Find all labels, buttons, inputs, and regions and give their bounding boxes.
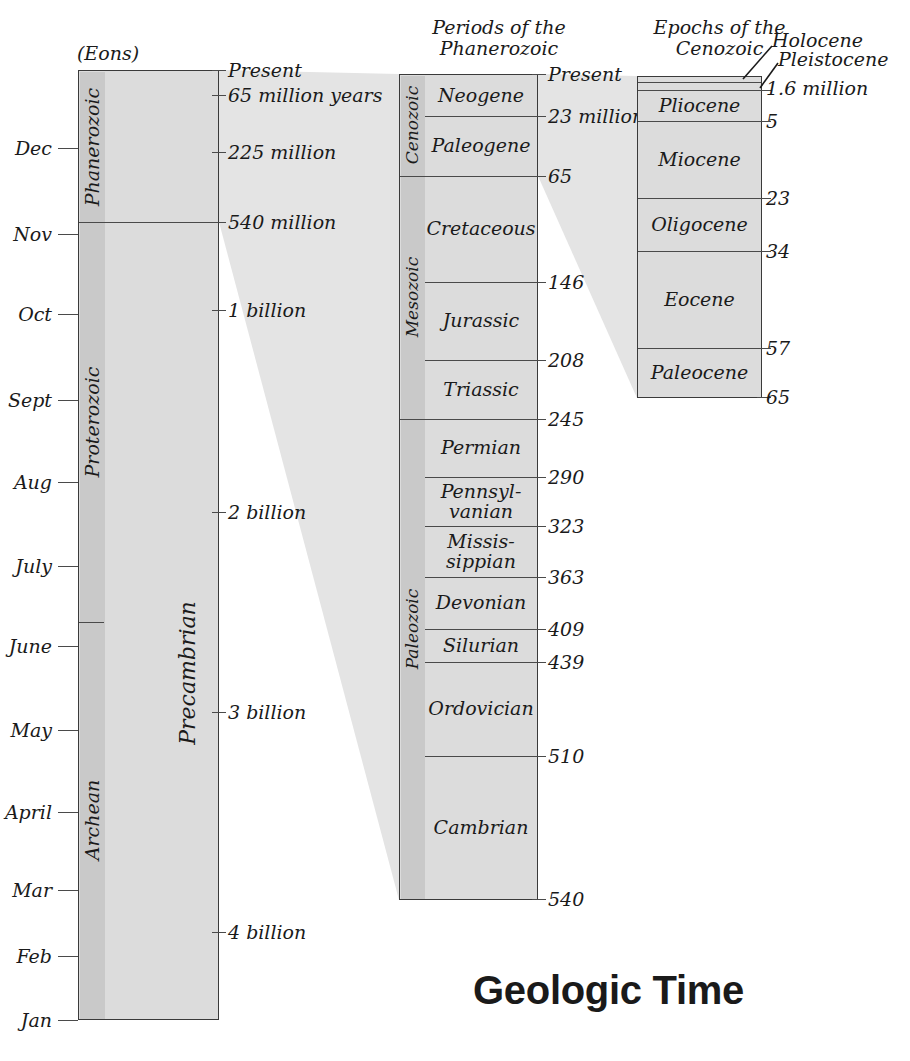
epoch-divider (638, 251, 761, 252)
eon-scale-tick (212, 95, 226, 96)
period-cell-neogene: Neogene (425, 76, 537, 116)
period-scale-label-65: 65 (548, 167, 572, 186)
month-tick (58, 1020, 78, 1021)
epoch-scale-label-1-6m: 1.6 million (766, 79, 868, 98)
eon-scale-label-65m: 65 million years (228, 86, 382, 105)
geologic-time-diagram: (Eons) Phanerozoic Proterozoic Archean P… (0, 0, 910, 1061)
month-tick (58, 400, 78, 401)
eon-column-heading: (Eons) (28, 43, 188, 64)
period-cell-triassic: Triassic (425, 360, 537, 419)
epoch-divider (638, 348, 761, 349)
epoch-cell-miocene: Miocene (638, 121, 761, 198)
month-tick (58, 314, 78, 315)
period-scale-label-510: 510 (548, 747, 584, 766)
eon-scale-tick (212, 222, 226, 223)
month-label-oct: Oct (0, 305, 52, 324)
period-scale-tick (532, 756, 546, 757)
precambrian-label: Precambrian (174, 553, 200, 793)
eon-scale-tick (212, 152, 226, 153)
epoch-scale-label-5: 5 (766, 112, 778, 131)
period-scale-label-23m: 23 million (548, 107, 644, 126)
period-scale-tick (532, 360, 546, 361)
period-era-strip (401, 76, 425, 899)
period-scale-label-208: 208 (548, 351, 584, 370)
month-label-mar: Mar (0, 881, 52, 900)
month-label-feb: Feb (0, 947, 52, 966)
period-scale-tick (532, 176, 546, 177)
eon-scale-label-225m: 225 million (228, 143, 336, 162)
period-cell-permian: Permian (425, 419, 537, 477)
eon-scale-tick (212, 512, 226, 513)
eon-label-phanerozoic: Phanerozoic (80, 67, 104, 227)
month-tick (58, 234, 78, 235)
eon-scale-label-540m: 540 million (228, 213, 336, 232)
period-cell-mississippian: Missis- sippian (425, 526, 537, 577)
period-cell-ordovician: Ordovician (425, 662, 537, 756)
epoch-divider (638, 121, 761, 122)
period-scale-label-540: 540 (548, 890, 584, 909)
month-tick (58, 482, 78, 483)
month-label-aug: Aug (0, 473, 52, 492)
month-label-june: June (0, 637, 52, 656)
month-tick (58, 730, 78, 731)
epoch-cell-eocene: Eocene (638, 251, 761, 348)
period-cell-silurian: Silurian (425, 629, 537, 662)
period-cell-cambrian: Cambrian (425, 756, 537, 899)
period-scale-label-439: 439 (548, 653, 584, 672)
era-label-cenozoic: Cenozoic (401, 65, 423, 185)
epoch-scale-label-23: 23 (766, 189, 790, 208)
period-cell-cretaceous: Cretaceous (425, 176, 537, 282)
month-tick (58, 890, 78, 891)
period-divider (425, 662, 537, 663)
period-scale-tick (532, 899, 546, 900)
month-label-april: April (0, 803, 52, 822)
period-divider (425, 756, 537, 757)
month-tick (58, 812, 78, 813)
month-tick (58, 148, 78, 149)
period-scale-label-146: 146 (548, 273, 584, 292)
period-scale-label-323: 323 (548, 517, 584, 536)
epoch-cell-pliocene: Pliocene (638, 90, 761, 121)
eon-scale-label-4b: 4 billion (228, 923, 306, 942)
epoch-scale-label-57: 57 (766, 339, 790, 358)
period-divider (425, 526, 537, 527)
epoch-divider (638, 198, 761, 199)
period-scale-tick (532, 662, 546, 663)
period-scale-tick (532, 282, 546, 283)
eon-label-proterozoic: Proterozoic (80, 342, 104, 502)
period-cell-pennsylvanian: Pennsyl- vanian (425, 477, 537, 526)
month-label-nov: Nov (0, 225, 52, 244)
era-label-mesozoic: Mesozoic (401, 237, 423, 357)
epoch-callout-pleistocene: Pleistocene (778, 50, 888, 69)
period-divider (425, 629, 537, 630)
period-divider (425, 116, 537, 117)
eon-scale-tick (212, 712, 226, 713)
period-scale-label-245: 245 (548, 410, 584, 429)
epoch-divider-holocene (638, 82, 761, 83)
month-tick (58, 646, 78, 647)
period-scale-label-409: 409 (548, 620, 584, 639)
month-label-july: July (0, 557, 52, 576)
eon-divider-proterozoic-archean (79, 622, 104, 623)
month-label-jan: Jan (0, 1011, 52, 1030)
period-scale-tick (532, 419, 546, 420)
period-scale-tick (532, 74, 546, 75)
period-scale-tick (532, 116, 546, 117)
eon-scale-label-2b: 2 billion (228, 503, 306, 522)
eon-scale-tick (212, 310, 226, 311)
period-scale-label-363: 363 (548, 568, 584, 587)
period-scale-label-present: Present (548, 65, 622, 84)
month-label-may: May (0, 721, 52, 740)
period-divider (425, 477, 537, 478)
epoch-cell-paleocene: Paleocene (638, 348, 761, 397)
period-divider (425, 360, 537, 361)
period-cell-paleogene: Paleogene (425, 116, 537, 176)
eon-scale-label-1b: 1 billion (228, 301, 306, 320)
epoch-cell-oligocene: Oligocene (638, 198, 761, 251)
eon-scale-tick (212, 70, 226, 71)
epoch-scale-label-34: 34 (766, 242, 790, 261)
eon-scale-label-present: Present (228, 61, 302, 80)
eon-label-archean: Archean (80, 740, 104, 900)
period-cell-jurassic: Jurassic (425, 282, 537, 360)
month-label-dec: Dec (0, 139, 52, 158)
